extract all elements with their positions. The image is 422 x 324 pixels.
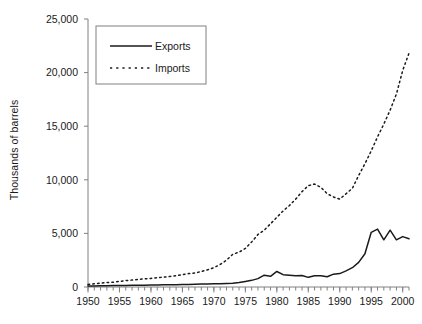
x-minor-tick-group — [88, 287, 409, 291]
x-tick-label-group: 1950195519601965197019751980198519901995… — [76, 295, 414, 307]
y-tick-label: 15,000 — [46, 120, 78, 132]
line-chart: Thousands of barrels 05,00010,00015,0002… — [0, 0, 422, 324]
y-tick-label-group: 05,00010,00015,00020,00025,000 — [46, 13, 78, 293]
x-tick-label: 1955 — [108, 295, 132, 307]
y-tick-label: 5,000 — [52, 227, 78, 239]
series-line-exports — [88, 229, 409, 286]
x-tick-label: 1985 — [297, 295, 321, 307]
x-tick-label: 1975 — [234, 295, 258, 307]
series-line-imports — [88, 53, 409, 284]
x-tick-label: 1980 — [265, 295, 289, 307]
x-tick-label: 1990 — [328, 295, 352, 307]
x-major-tick-group — [88, 287, 403, 293]
legend-label-imports: Imports — [155, 62, 190, 74]
x-tick-label: 1960 — [139, 295, 163, 307]
x-tick-label: 1970 — [202, 295, 226, 307]
y-tick-label: 20,000 — [46, 66, 78, 78]
y-tick-mark-group — [84, 19, 88, 287]
plot-area: 05,00010,00015,00020,00025,000 195019551… — [0, 0, 422, 324]
y-tick-label: 0 — [72, 281, 78, 293]
y-tick-label: 10,000 — [46, 174, 78, 186]
legend-box — [96, 26, 206, 84]
data-series-group — [88, 53, 409, 286]
x-tick-label: 1965 — [171, 295, 195, 307]
x-tick-label: 1950 — [76, 295, 100, 307]
x-tick-label: 2000 — [391, 295, 415, 307]
chart-legend: Exports Imports — [96, 26, 206, 84]
y-tick-label: 25,000 — [46, 13, 78, 25]
x-tick-label: 1995 — [360, 295, 384, 307]
legend-label-exports: Exports — [155, 40, 191, 52]
